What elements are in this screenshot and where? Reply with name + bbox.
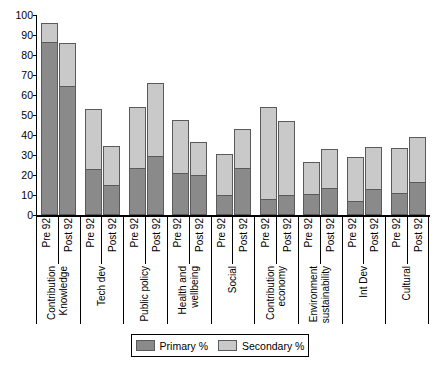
legend-label-secondary: Secondary %	[242, 340, 304, 352]
x-axis-period-label: Pre 92	[254, 218, 276, 264]
x-axis-period-label: Post 92	[189, 218, 211, 264]
x-axis-group: Pre 92Post 92Cultural	[385, 216, 429, 324]
period-text: Post 92	[282, 218, 293, 252]
bar-pre92	[129, 107, 146, 215]
bar-segment-primary	[104, 185, 119, 214]
period-text: Pre 92	[129, 218, 140, 247]
y-axis-tick-label: 30	[21, 150, 33, 160]
x-axis-group: Pre 92Post 92Public policy	[123, 216, 167, 324]
bar-segment-secondary	[392, 149, 407, 195]
bar-segment-secondary	[322, 150, 337, 190]
bar-segment-primary	[217, 195, 232, 214]
bar-segment-secondary	[86, 110, 101, 171]
x-axis-period-label: Pre 92	[123, 218, 145, 264]
period-text: Pre 92	[41, 218, 52, 247]
bar-post92	[278, 121, 295, 215]
x-axis-period-label: Post 92	[320, 218, 342, 264]
bar-segment-primary	[279, 195, 294, 214]
period-text: Post 92	[369, 218, 380, 252]
x-axis-period-label: Pre 92	[342, 218, 364, 264]
x-axis-group: Pre 92Post 92ContributionKnowledge	[36, 216, 80, 324]
secondary-swatch-icon	[218, 340, 237, 351]
period-text: Post 92	[413, 218, 424, 252]
x-axis-group: Pre 92Post 92Contributioneconomy	[254, 216, 298, 324]
bar-pre92	[347, 157, 364, 215]
category-text-line: Cultural	[401, 266, 413, 300]
x-axis-period-label: Post 92	[58, 218, 80, 264]
bar-segment-primary	[86, 169, 101, 214]
x-axis-category-label: Cultural	[385, 266, 429, 324]
bar-segment-primary	[392, 193, 407, 214]
bar-segment-primary	[410, 182, 425, 214]
period-text: Post 92	[63, 218, 74, 252]
category-text-line: Social	[227, 266, 239, 293]
bar-segment-secondary	[191, 143, 206, 177]
legend-label-primary: Primary %	[160, 340, 208, 352]
bar-segment-secondary	[235, 130, 250, 170]
x-axis-period-label: Pre 92	[167, 218, 189, 264]
bar-group	[299, 15, 343, 215]
bar-segment-primary	[60, 86, 75, 214]
bar-pre92	[172, 120, 189, 215]
x-axis-category-label: Public policy	[123, 266, 167, 324]
category-text-line: Environment	[308, 266, 320, 322]
category-text-line: Knowledge	[58, 266, 70, 315]
bar-segment-primary	[366, 189, 381, 214]
bar-group	[81, 15, 125, 215]
bar-post92	[234, 129, 251, 215]
y-axis-tick-label: 100	[15, 10, 33, 20]
category-text-line: Int Dev	[358, 266, 370, 298]
y-axis-labels: 1009080706050403020100	[0, 15, 33, 216]
bar-segment-primary	[261, 199, 276, 214]
primary-swatch-icon	[136, 340, 155, 351]
bar-pre92	[260, 107, 277, 215]
bar-segment-secondary	[217, 155, 232, 197]
x-axis-period-label: Pre 92	[211, 218, 233, 264]
bar-segment-primary	[235, 168, 250, 214]
x-axis-period-label: Pre 92	[385, 218, 407, 264]
bar-group	[212, 15, 256, 215]
bar-post92	[409, 137, 426, 215]
y-axis-tick-label: 70	[21, 70, 33, 80]
bar-group	[255, 15, 299, 215]
period-text: Pre 92	[303, 218, 314, 247]
x-axis-group: Pre 92Post 92Tech dev	[80, 216, 124, 324]
x-axis-period-label: Post 92	[363, 218, 385, 264]
bar-pre92	[41, 23, 58, 215]
bar-segment-secondary	[42, 24, 57, 44]
bar-group	[124, 15, 168, 215]
bar-post92	[190, 142, 207, 215]
x-axis-category-label: Environmentsustainability	[298, 266, 342, 324]
bar-pre92	[303, 162, 320, 215]
bar-segment-primary	[191, 175, 206, 214]
y-axis-tick-label: 90	[21, 30, 33, 40]
period-text: Pre 92	[391, 218, 402, 247]
period-text: Post 92	[238, 218, 249, 252]
bar-post92	[103, 146, 120, 215]
x-axis-period-label: Post 92	[407, 218, 429, 264]
bar-group	[386, 15, 430, 215]
y-axis-tick-label: 10	[21, 190, 33, 200]
bar-segment-secondary	[279, 122, 294, 197]
bar-segment-secondary	[304, 163, 319, 196]
y-axis-tick-label: 60	[21, 90, 33, 100]
bar-segment-secondary	[348, 158, 363, 203]
x-axis-category-label: ContributionKnowledge	[36, 266, 80, 324]
x-axis-period-label: Pre 92	[36, 218, 58, 264]
x-axis-period-label: Post 92	[101, 218, 123, 264]
bar-post92	[59, 43, 76, 215]
period-text: Pre 92	[216, 218, 227, 247]
bar-segment-primary	[148, 156, 163, 214]
bar-post92	[147, 83, 164, 215]
category-text-line: Contribution	[265, 266, 277, 320]
x-axis-period-label: Post 92	[232, 218, 254, 264]
stacked-bar-chart: 1009080706050403020100 Pre 92Post 92Cont…	[0, 0, 436, 371]
period-text: Post 92	[107, 218, 118, 252]
y-axis-tick-label: 50	[21, 110, 33, 120]
plot-area	[37, 15, 430, 215]
x-axis-period-label: Pre 92	[80, 218, 102, 264]
x-axis-category-label: Health andwellbeing	[167, 266, 211, 324]
bar-pre92	[85, 109, 102, 215]
y-axis-tick-label: 20	[21, 170, 33, 180]
x-axis-category-label: Contributioneconomy	[254, 266, 298, 324]
